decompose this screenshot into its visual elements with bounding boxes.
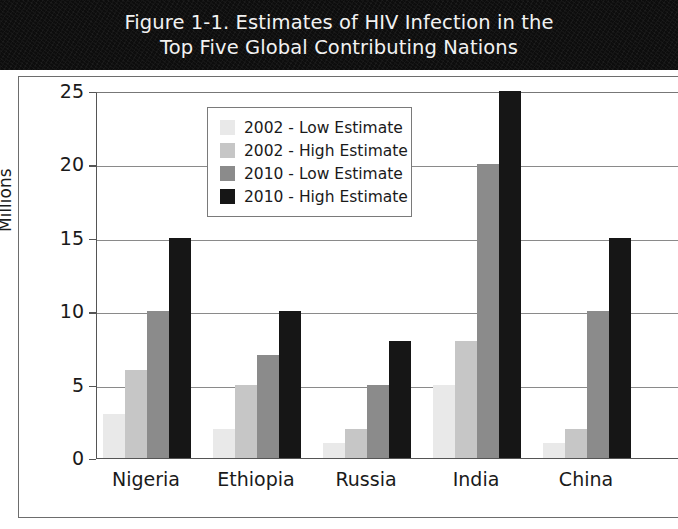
legend-item-1: 2002 - High Estimate — [220, 139, 401, 162]
bar-russia-series-3 — [389, 341, 411, 458]
y-tick-mark — [89, 459, 96, 460]
legend-label: 2010 - Low Estimate — [244, 165, 403, 183]
x-tick-label-india: India — [420, 468, 532, 490]
bar-russia-series-1 — [345, 429, 367, 458]
legend-label: 2002 - Low Estimate — [244, 119, 403, 137]
y-tick-mark — [89, 312, 96, 313]
y-tick-mark — [89, 165, 96, 166]
bar-india-series-2 — [477, 164, 499, 458]
bar-nigeria-series-1 — [125, 370, 147, 458]
y-tick-mark — [89, 386, 96, 387]
legend-item-2: 2010 - Low Estimate — [220, 162, 401, 185]
legend-swatch-icon — [220, 189, 235, 204]
y-axis-title: Millions — [0, 168, 15, 232]
bar-india-series-1 — [455, 341, 477, 458]
bar-ethiopia-series-3 — [279, 311, 301, 458]
chart-title: Figure 1-1. Estimates of HIV Infection i… — [124, 10, 553, 60]
y-tick-mark — [89, 239, 96, 240]
y-tick-label: 15 — [44, 227, 84, 249]
bar-ethiopia-series-0 — [213, 429, 235, 458]
x-tick-label-nigeria: Nigeria — [90, 468, 202, 490]
legend-swatch-icon — [220, 166, 235, 181]
bar-nigeria-series-0 — [103, 414, 125, 458]
bar-india-series-3 — [499, 91, 521, 458]
legend-item-0: 2002 - Low Estimate — [220, 116, 401, 139]
bar-ethiopia-series-2 — [257, 355, 279, 458]
y-tick-mark — [89, 92, 96, 93]
legend-swatch-icon — [220, 143, 235, 158]
x-tick-label-china: China — [530, 468, 642, 490]
chart-legend: 2002 - Low Estimate2002 - High Estimate2… — [207, 107, 412, 217]
y-tick-label: 0 — [44, 447, 84, 469]
x-tick-label-russia: Russia — [310, 468, 422, 490]
bar-nigeria-series-2 — [147, 311, 169, 458]
y-tick-label: 10 — [44, 300, 84, 322]
bar-russia-series-2 — [367, 385, 389, 458]
legend-label: 2002 - High Estimate — [244, 142, 408, 160]
bar-china-series-1 — [565, 429, 587, 458]
y-tick-label: 20 — [44, 153, 84, 175]
legend-swatch-icon — [220, 120, 235, 135]
title-band: Figure 1-1. Estimates of HIV Infection i… — [0, 0, 678, 70]
bar-china-series-3 — [609, 238, 631, 458]
bar-india-series-0 — [433, 385, 455, 458]
bar-china-series-2 — [587, 311, 609, 458]
legend-label: 2010 - High Estimate — [244, 188, 408, 206]
bar-russia-series-0 — [323, 443, 345, 458]
bar-ethiopia-series-1 — [235, 385, 257, 458]
bar-china-series-0 — [543, 443, 565, 458]
y-tick-label: 25 — [44, 80, 84, 102]
x-tick-label-ethiopia: Ethiopia — [200, 468, 312, 490]
bar-nigeria-series-3 — [169, 238, 191, 458]
legend-item-3: 2010 - High Estimate — [220, 185, 401, 208]
y-tick-label: 5 — [44, 374, 84, 396]
